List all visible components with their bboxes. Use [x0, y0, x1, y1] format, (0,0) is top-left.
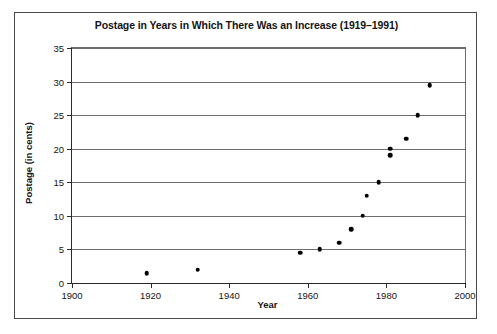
- y-axis-tick: [67, 182, 72, 183]
- y-axis-tick-label: 20: [53, 143, 64, 154]
- x-axis-tick: [229, 283, 230, 288]
- chart-title: Postage in Years in Which There Was an I…: [15, 19, 478, 31]
- data-point: [317, 247, 322, 252]
- x-axis-tick: [72, 283, 73, 288]
- data-point: [144, 271, 149, 276]
- data-point: [298, 250, 303, 255]
- gridline-horizontal: [72, 82, 465, 83]
- y-axis-tick: [67, 115, 72, 116]
- y-axis-tick-label: 15: [53, 177, 64, 188]
- x-axis-tick: [308, 283, 309, 288]
- plot-area: 05101520253035190019201940196019802000: [71, 47, 466, 284]
- y-axis-tick-label: 5: [59, 244, 64, 255]
- data-point: [388, 146, 393, 151]
- y-axis-tick: [67, 48, 72, 49]
- y-axis-tick: [67, 149, 72, 150]
- y-axis-tick-label: 35: [53, 43, 64, 54]
- gridline-horizontal: [72, 216, 465, 217]
- data-point: [349, 227, 354, 232]
- data-point: [427, 83, 432, 88]
- y-axis-tick: [67, 249, 72, 250]
- data-point: [361, 214, 366, 219]
- gridline-horizontal: [72, 149, 465, 150]
- data-point: [416, 113, 421, 118]
- y-axis-title: Postage (in cents): [23, 122, 34, 204]
- data-point: [364, 193, 369, 198]
- y-axis-tick: [67, 216, 72, 217]
- y-axis-tick-label: 10: [53, 210, 64, 221]
- gridline-horizontal: [72, 115, 465, 116]
- y-axis-tick-label: 0: [59, 278, 64, 289]
- x-axis-tick: [151, 283, 152, 288]
- y-axis-tick: [67, 82, 72, 83]
- data-point: [404, 136, 409, 141]
- data-point: [376, 180, 381, 185]
- data-point: [337, 240, 342, 245]
- data-point: [388, 153, 393, 158]
- chart-frame: Postage in Years in Which There Was an I…: [14, 12, 477, 319]
- y-axis-tick-label: 25: [53, 110, 64, 121]
- x-axis-tick: [386, 283, 387, 288]
- y-axis-tick-label: 30: [53, 76, 64, 87]
- x-axis-title: Year: [71, 299, 464, 310]
- gridline-horizontal: [72, 249, 465, 250]
- x-axis-tick: [465, 283, 466, 288]
- gridline-horizontal: [72, 182, 465, 183]
- gridline-horizontal: [72, 48, 465, 49]
- data-point: [195, 267, 200, 272]
